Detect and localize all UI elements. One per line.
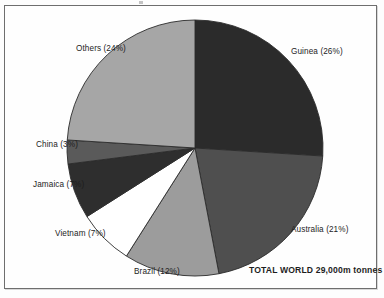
pie-slice-others: [67, 20, 195, 148]
pie-label-brazil: Brazil (12%): [134, 268, 180, 276]
pie-label-vietnam: Vietnam (7%): [55, 230, 106, 238]
pie-chart-figure: Guinea (26%) Australia (21%) Brazil (12%…: [0, 0, 384, 298]
pie-slice-guinea: [195, 20, 323, 156]
pie-label-china: China (3%): [36, 141, 78, 149]
pie-label-others: Others (24%): [76, 45, 126, 53]
pie-label-australia: Australia (21%): [291, 226, 348, 234]
pie-label-guinea: Guinea (26%): [291, 48, 343, 56]
pie-label-jamaica: Jamaica (7%): [33, 181, 84, 189]
total-world-annotation: TOTAL WORLD 29,000m tonnes: [249, 266, 382, 275]
